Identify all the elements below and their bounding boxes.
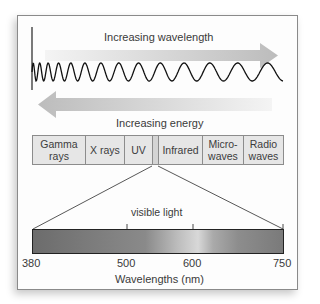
axis-label: Wavelengths (nm) — [115, 273, 204, 285]
region-microwaves: Micro- waves — [202, 135, 244, 165]
region-x-rays: X rays — [85, 135, 125, 165]
region-label: waves — [249, 150, 279, 162]
region-label: waves — [208, 150, 238, 162]
visible-zoom-line-left — [33, 166, 152, 229]
region-label: UV — [131, 144, 146, 156]
region-label: rays — [49, 150, 69, 162]
tick-label-750: 750 — [273, 257, 291, 269]
tick-label-600: 600 — [183, 257, 201, 269]
region-uv: UV — [124, 135, 153, 165]
region-label: Radio — [250, 138, 277, 150]
region-label: X rays — [90, 144, 120, 156]
energy-arrow-icon — [38, 91, 272, 118]
region-label: Micro- — [208, 138, 237, 150]
region-gamma-rays: Gamma rays — [32, 135, 86, 165]
visible-light-label: visible light — [131, 206, 182, 218]
wave-icon — [32, 63, 283, 81]
tick-label-500: 500 — [117, 257, 135, 269]
top-arrow-label: Increasing wavelength — [104, 31, 213, 43]
visible-spectrum-bar — [32, 229, 284, 254]
tick-label-380: 380 — [22, 257, 40, 269]
region-label: Infrared — [162, 144, 198, 156]
region-infrared: Infrared — [158, 135, 203, 165]
visible-zoom-line-right — [158, 166, 283, 229]
bottom-arrow-label: Increasing energy — [116, 117, 203, 129]
region-label: Gamma — [40, 138, 77, 150]
region-radio-waves: Radio waves — [243, 135, 284, 165]
